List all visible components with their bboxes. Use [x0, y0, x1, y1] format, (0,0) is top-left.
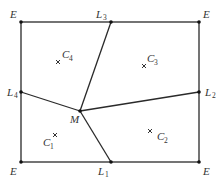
- label-l4: L 4: [6, 86, 18, 100]
- label-c2: C 2: [157, 130, 168, 145]
- segment-m-l2: [80, 92, 199, 111]
- svg-text:L: L: [6, 86, 13, 98]
- cross-marker-c1: [53, 133, 57, 137]
- svg-text:L: L: [95, 8, 102, 20]
- vertex-l3: [109, 20, 113, 24]
- label-l3: L 3: [95, 8, 107, 22]
- svg-text:2: 2: [212, 91, 216, 100]
- cross-marker-c4: [56, 60, 60, 64]
- label-c4: C 4: [62, 48, 73, 63]
- svg-text:3: 3: [154, 58, 158, 67]
- partition-diagram: E E E E L 3 L 4 L 2 L 1 M C 4 C 3 C 1 C …: [0, 0, 222, 182]
- vertex-l4: [19, 90, 23, 94]
- vertex-e-top-left: [19, 20, 23, 24]
- label-c1: C 1: [43, 136, 54, 151]
- vertex-e-bottom-right: [197, 160, 201, 164]
- vertex-l1: [109, 160, 113, 164]
- svg-text:L: L: [97, 165, 104, 177]
- segment-m-l1: [80, 111, 111, 162]
- svg-text:4: 4: [69, 54, 73, 63]
- label-c3: C 3: [147, 52, 158, 67]
- label-m: M: [69, 113, 80, 125]
- label-l2: L 2: [204, 86, 216, 100]
- svg-text:4: 4: [14, 91, 18, 100]
- cross-marker-c3: [142, 64, 146, 68]
- svg-text:3: 3: [103, 13, 107, 22]
- svg-text:2: 2: [164, 136, 168, 145]
- label-l1: L 1: [97, 165, 109, 179]
- svg-text:1: 1: [50, 142, 54, 151]
- cross-marker-c2: [148, 129, 152, 133]
- label-e-top-right: E: [202, 8, 210, 20]
- svg-text:1: 1: [105, 170, 109, 179]
- vertex-e-top-right: [197, 20, 201, 24]
- label-e-top-left: E: [9, 8, 17, 20]
- segment-m-l4: [21, 92, 80, 111]
- segment-m-l3: [80, 22, 111, 111]
- label-e-bottom-right: E: [202, 165, 210, 177]
- label-e-bottom-left: E: [9, 165, 17, 177]
- svg-text:L: L: [204, 86, 211, 98]
- vertex-l2: [197, 90, 201, 94]
- vertex-e-bottom-left: [19, 160, 23, 164]
